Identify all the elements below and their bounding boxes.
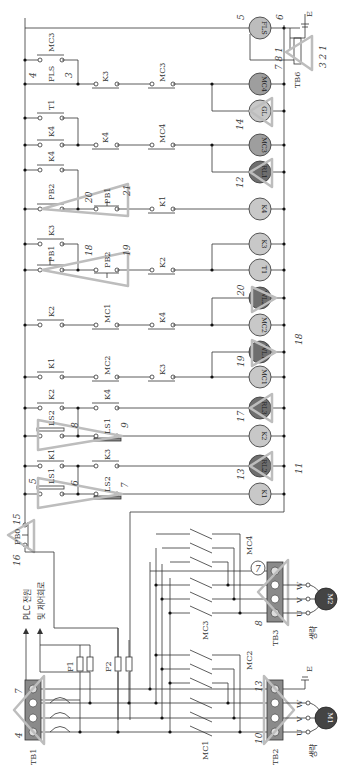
svg-text:MC3: MC3: [47, 33, 56, 52]
svg-text:7: 7: [255, 564, 261, 574]
svg-text:16: 16: [12, 554, 22, 566]
svg-text:3 2 1: 3 2 1: [318, 45, 328, 68]
coil-k2: K2: [249, 425, 271, 447]
contactors-mc1-mc2: MC1 MC2: [154, 650, 254, 760]
terminal-block-tb1: TB1 4 7: [14, 676, 44, 765]
svg-text:7: 7: [14, 688, 24, 694]
svg-text:MC4: MC4: [260, 76, 268, 92]
svg-text:8: 8: [254, 620, 264, 626]
svg-text:K4: K4: [47, 126, 56, 137]
power-lines: F1 F2: [33, 548, 275, 734]
svg-text:MC3: MC3: [260, 137, 268, 153]
svg-text:LS1: LS1: [47, 468, 56, 484]
rung-k2: [23, 420, 255, 450]
svg-text:M1: M1: [326, 713, 334, 724]
svg-text:W: W: [295, 581, 304, 590]
coil-mc4: MC4: [249, 73, 271, 95]
svg-text:K4: K4: [260, 205, 268, 214]
timer-t1: T1: [249, 259, 271, 281]
svg-text:K3: K3: [158, 364, 167, 375]
svg-text:6: 6: [275, 14, 285, 20]
svg-text:FLS: FLS: [260, 21, 268, 34]
svg-text:PB1: PB1: [47, 246, 56, 262]
coil-mc3: MC3: [249, 134, 271, 156]
svg-text:F2: F2: [104, 661, 113, 672]
svg-text:4: 4: [14, 732, 24, 739]
motor-m2: M2 W V U 생략: [283, 581, 337, 640]
svg-text:9: 9: [120, 422, 130, 428]
svg-text:PB2: PB2: [103, 252, 112, 268]
svg-text:RL2: RL2: [260, 459, 268, 472]
svg-text:5: 5: [28, 478, 38, 484]
svg-text:3: 3: [64, 72, 74, 78]
svg-text:MC3: MC3: [201, 621, 210, 640]
svg-text:MC2: MC2: [103, 356, 112, 375]
svg-text:TB2: TB2: [271, 749, 280, 765]
rung-mc3: [23, 113, 255, 209]
svg-text:5: 5: [236, 14, 246, 20]
svg-text:PB2: PB2: [47, 184, 56, 200]
svg-text:TB6: TB6: [293, 72, 302, 88]
svg-text:MC1: MC1: [260, 369, 268, 385]
svg-text:19: 19: [122, 244, 132, 256]
svg-text:MC4: MC4: [158, 124, 167, 143]
svg-text:K4: K4: [101, 132, 110, 143]
svg-text:RL1: RL1: [260, 165, 268, 178]
coil-mc2: MC2: [249, 314, 271, 336]
rung-k4: [23, 184, 255, 216]
svg-text:TB3: TB3: [271, 630, 280, 646]
svg-text:생략: 생략: [308, 625, 318, 640]
svg-text:생략: 생략: [308, 743, 318, 758]
svg-text:및 제어회로: 및 제어회로: [36, 582, 46, 620]
svg-text:TB1: TB1: [29, 749, 38, 765]
svg-text:K3: K3: [47, 225, 56, 236]
svg-text:K2: K2: [260, 432, 268, 441]
rung-mc2: [23, 298, 255, 329]
svg-text:4: 4: [28, 72, 38, 79]
svg-text:K3: K3: [260, 240, 268, 249]
rung-mc1: [23, 352, 255, 381]
coil-k1: K1: [249, 483, 271, 505]
svg-text:V: V: [295, 597, 304, 604]
svg-text:GL: GL: [260, 106, 268, 116]
svg-text:E: E: [305, 666, 314, 672]
contact-labels: MC3 FLS K3 MC3 T1 K4 K4 K4 MC4 PB2 PB1 K…: [47, 33, 167, 492]
svg-text:10: 10: [254, 732, 264, 744]
svg-text:PB1: PB1: [103, 188, 112, 204]
svg-text:K4: K4: [158, 312, 167, 323]
svg-text:U: U: [295, 729, 304, 736]
svg-text:K3: K3: [103, 449, 112, 460]
svg-text:7 8 1: 7 8 1: [274, 47, 284, 70]
svg-text:M2: M2: [326, 594, 334, 605]
svg-text:LS2: LS2: [47, 410, 56, 426]
svg-text:FLS: FLS: [47, 66, 56, 82]
coil-k3: K3: [249, 233, 271, 255]
svg-text:K4: K4: [47, 151, 56, 162]
svg-text:12: 12: [235, 176, 245, 188]
svg-text:MC1: MC1: [201, 741, 210, 760]
svg-text:K1: K1: [260, 490, 268, 499]
svg-text:K3: K3: [101, 71, 110, 82]
svg-text:K2: K2: [47, 306, 56, 317]
coil-fls: FLS: [249, 17, 271, 39]
svg-text:8: 8: [70, 422, 80, 428]
rung-k1: [23, 478, 255, 508]
svg-text:18: 18: [294, 333, 304, 345]
svg-text:14: 14: [235, 118, 245, 130]
coils: FLS MC4 GL MC3 RL1 K4 K3 T1 WL2 MC2 WL1 …: [249, 17, 286, 505]
coil-mc1: MC1: [249, 366, 271, 388]
svg-text:E: E: [305, 11, 314, 17]
svg-text:13: 13: [236, 468, 246, 480]
svg-text:T1: T1: [260, 266, 268, 274]
svg-text:19: 19: [236, 355, 246, 367]
svg-text:11: 11: [294, 463, 304, 474]
coil-k4: K4: [249, 198, 271, 220]
svg-text:18: 18: [84, 244, 94, 256]
svg-text:K4: K4: [103, 389, 112, 400]
svg-text:20: 20: [236, 284, 246, 297]
svg-text:MC2: MC2: [245, 651, 254, 670]
svg-text:T1: T1: [47, 100, 56, 110]
svg-text:7: 7: [120, 482, 130, 488]
svg-text:K1: K1: [47, 449, 56, 460]
svg-text:RL3: RL3: [260, 401, 268, 414]
